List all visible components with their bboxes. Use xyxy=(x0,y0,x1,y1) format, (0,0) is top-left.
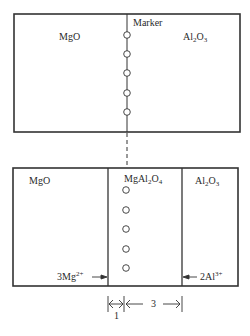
al-flux-label: 2Al3+ xyxy=(200,271,222,282)
bottom-al2o3-label: Al2O3 xyxy=(195,175,219,186)
spinel-label: MgAl2O4 xyxy=(124,173,162,184)
ratio-three-label: 3 xyxy=(151,298,156,309)
marker-circle xyxy=(123,246,130,253)
marker-circle xyxy=(123,187,130,194)
top-mgo-label: MgO xyxy=(59,31,80,42)
al-flux-arrow xyxy=(183,275,197,279)
mg-flux-label: 3Mg2+ xyxy=(57,271,83,282)
bottom-mgo-label: MgO xyxy=(29,175,50,186)
ratio-one-label: 1 xyxy=(114,310,119,321)
top-al2o3-label: Al2O3 xyxy=(183,31,207,42)
bottom-markers xyxy=(123,187,130,272)
marker-circle xyxy=(124,32,131,39)
diagram-canvas xyxy=(0,0,250,336)
mg-flux-arrow xyxy=(92,275,107,279)
marker-circle xyxy=(124,70,131,77)
marker-circle xyxy=(124,90,131,97)
marker-circle xyxy=(124,51,131,58)
dimension-indicator xyxy=(108,296,182,312)
marker-circle xyxy=(124,109,131,116)
marker-circle xyxy=(123,265,130,272)
marker-circle xyxy=(123,226,130,233)
marker-label: Marker xyxy=(133,17,162,28)
marker-circle xyxy=(123,207,130,214)
